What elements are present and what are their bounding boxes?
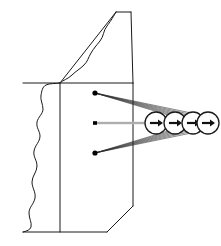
- ray-diagram-svg: [0, 0, 221, 246]
- circle-element-4: [197, 112, 219, 134]
- middle-source-point: [93, 121, 97, 125]
- circular-element-chain: [145, 112, 219, 134]
- figure-container: Cut-away block with three emitting point…: [0, 0, 221, 246]
- lower-source-point: [92, 150, 97, 155]
- upper-source-point: [92, 90, 97, 95]
